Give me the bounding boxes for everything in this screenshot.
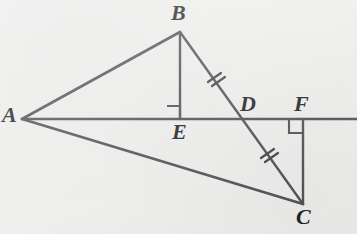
line-segment-AB bbox=[22, 32, 180, 119]
figure-canvas bbox=[0, 0, 357, 234]
line-segment-AC bbox=[22, 119, 303, 204]
vertex-label-B: B bbox=[171, 2, 186, 24]
vertex-label-E: E bbox=[172, 121, 187, 143]
vertex-label-C: C bbox=[296, 206, 311, 228]
vertex-label-D: D bbox=[240, 93, 256, 115]
geometry-figure: A B C D E F bbox=[0, 0, 357, 234]
right-angle-mark-F bbox=[289, 119, 303, 133]
right-angle-mark-E bbox=[167, 106, 180, 119]
vertex-label-A: A bbox=[2, 104, 17, 126]
vertex-label-F: F bbox=[294, 93, 309, 115]
